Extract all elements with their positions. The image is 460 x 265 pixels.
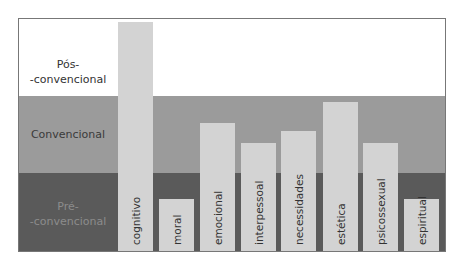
bar-espiritual: espiritual: [404, 199, 439, 251]
label-line: -convencional: [19, 72, 117, 87]
bar-label: estética: [335, 203, 348, 245]
bar-estética: estética: [323, 102, 358, 251]
bar-moral: moral: [159, 199, 194, 251]
bar-label: cognitivo: [130, 197, 143, 245]
label-line: Convencional: [19, 127, 117, 142]
bar-label: moral: [171, 215, 184, 245]
bar-label: necessidades: [293, 174, 306, 245]
bar-label: emocional: [212, 191, 225, 245]
label-conventional: Convencional: [19, 127, 117, 142]
bar-label: interpessoal: [253, 181, 266, 245]
label-pre-conventional: Pré- -convencional: [19, 199, 117, 229]
label-line: Pós-: [19, 57, 117, 72]
bar-interpessoal: interpessoal: [241, 143, 276, 251]
bar-emocional: emocional: [200, 123, 235, 252]
bar-label: psicossexual: [375, 178, 388, 245]
label-post-conventional: Pós- -convencional: [19, 57, 117, 87]
bar-psicossexual: psicossexual: [363, 143, 398, 251]
bar-cognitivo: cognitivo: [118, 22, 153, 251]
label-line: Pré-: [19, 199, 117, 214]
bar-necessidades: necessidades: [281, 131, 316, 251]
label-line: -convencional: [19, 214, 117, 229]
bar-label: espiritual: [416, 196, 429, 245]
chart-frame: Pós- -convencional Convencional Pré- -co…: [18, 18, 446, 252]
